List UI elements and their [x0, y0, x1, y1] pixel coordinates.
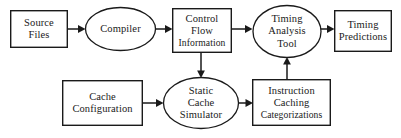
edge-source-files-to-compiler: [68, 25, 86, 33]
node-shape-source-files[interactable]: [11, 11, 68, 48]
edge-control-flow-information-to-timing-analysis-tool: [232, 25, 253, 33]
node-shape-timing-predictions[interactable]: [335, 11, 392, 52]
flow-diagram: Source Files Compiler Control Flow Infor…: [0, 0, 401, 138]
node-shape-control-flow-information[interactable]: [173, 9, 232, 53]
node-shape-static-cache-simulator[interactable]: [164, 78, 239, 129]
node-shape-instruction-caching-categorizations[interactable]: [253, 80, 331, 126]
node-shape-timing-analysis-tool[interactable]: [253, 6, 321, 58]
edge-compiler-to-control-flow-information: [156, 25, 173, 33]
edge-cache-configuration-to-static-cache-simulator: [143, 99, 164, 107]
node-shape-cache-configuration[interactable]: [63, 81, 143, 126]
edge-control-flow-information-to-static-cache-simulator: [197, 53, 205, 79]
edge-instruction-caching-categorizations-to-timing-analysis-tool: [283, 57, 291, 80]
diagram-canvas: [0, 0, 401, 138]
node-shape-compiler[interactable]: [86, 8, 156, 51]
edge-timing-analysis-tool-to-timing-predictions: [321, 25, 335, 33]
edge-static-cache-simulator-to-instruction-caching-categorizations: [239, 99, 254, 107]
